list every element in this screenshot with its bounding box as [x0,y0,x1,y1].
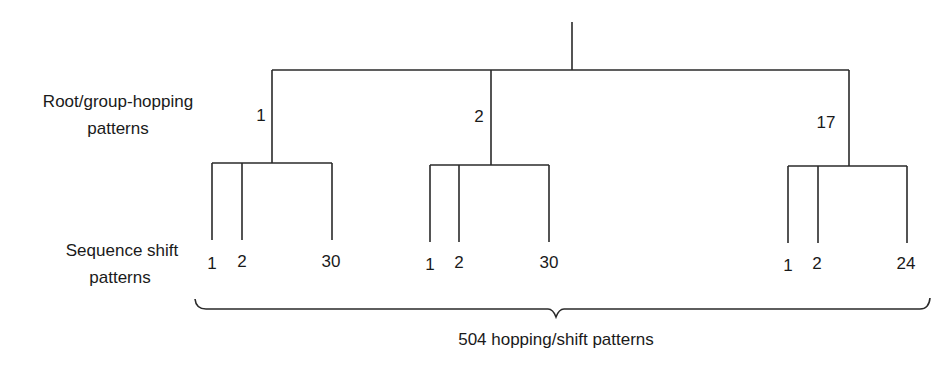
group-2-label: 2 [474,107,483,126]
level2-label-line1: Sequence shift [66,241,179,260]
leaf-label: 30 [540,253,559,272]
leaf-label: 24 [897,254,916,273]
total-brace [195,298,930,317]
total-patterns-label: 504 hopping/shift patterns [458,330,654,349]
group-2-leaves: 1 2 30 [425,165,558,274]
group-17-label: 17 [817,113,836,132]
leaf-label: 2 [237,252,246,271]
level1-label-line2: patterns [87,119,148,138]
hopping-pattern-tree: 1 2 17 1 2 30 1 2 30 1 2 24 Root/group-h… [0,0,952,370]
leaf-label: 1 [425,255,434,274]
level1-label-line1: Root/group-hopping [43,92,193,111]
leaf-label: 2 [454,253,463,272]
group-1-leaves: 1 2 30 [207,163,340,273]
group-1-label: 1 [256,106,265,125]
leaf-label: 2 [812,254,821,273]
leaf-label: 1 [783,256,792,275]
leaf-label: 1 [207,254,216,273]
group-17-leaves: 1 2 24 [783,166,915,275]
leaf-label: 30 [322,252,341,271]
level2-label-line2: patterns [89,268,150,287]
